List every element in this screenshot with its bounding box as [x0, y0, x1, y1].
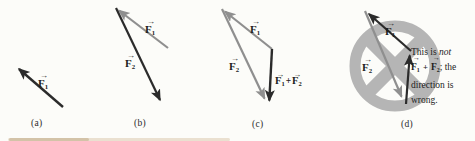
- f2-vector-label: →F2: [362, 62, 372, 75]
- plus-sign: +: [420, 62, 431, 72]
- cropped-figure-caption-left: [9, 138, 89, 141]
- vector-arrow-icon: →: [252, 18, 260, 26]
- vector-arrow-icon: →: [147, 18, 155, 26]
- f1-vector-label: →F1: [145, 24, 155, 37]
- vector-arrow-icon: →: [231, 55, 239, 63]
- note-line-3: direction is: [411, 78, 475, 93]
- wrong-direction-note: This is not →F1 + →F2; the direction is …: [411, 45, 475, 108]
- vector-arrow-icon: →: [413, 55, 420, 62]
- note-line-2: →F1 + →F2; the: [411, 60, 475, 78]
- vector-arrow-icon: →: [294, 71, 302, 79]
- vector-arrow-icon: →: [387, 20, 395, 28]
- note-italic-not: not: [439, 47, 451, 57]
- f2-vector-label: →F2: [229, 61, 239, 74]
- panel-c-letter: (c): [252, 120, 263, 130]
- vector-addition-figure: →F1 (a) →F1 →F2 (b) →F1 →F2 →F1+→F2 (c) …: [0, 0, 475, 141]
- resultant-vector: [269, 49, 272, 101]
- vector-arrow-icon: →: [40, 72, 48, 80]
- panel-a-letter: (a): [31, 119, 42, 129]
- panel-d-letter: (d): [401, 120, 413, 130]
- vector-arrow-icon: →: [127, 52, 135, 60]
- f1-vector-label: →F1: [385, 26, 395, 39]
- panel-b-letter: (b): [134, 119, 146, 129]
- vector-arrow-icon: →: [277, 71, 285, 79]
- vector-arrow-icon: →: [432, 55, 439, 62]
- resultant-sum-label: →F1+→F2: [275, 76, 302, 87]
- note-line-4: wrong.: [411, 93, 475, 108]
- f1-vector-label: →F1: [38, 78, 48, 91]
- f2-vector-label: →F2: [125, 58, 135, 71]
- panel-b-vectors: [116, 8, 168, 100]
- panel-c-vectors: [222, 9, 272, 101]
- f1-vector-label: →F1: [250, 24, 260, 37]
- vector-arrow-icon: →: [364, 56, 372, 64]
- plus-sign: +: [285, 76, 292, 86]
- note-line-1: This is not: [411, 45, 475, 60]
